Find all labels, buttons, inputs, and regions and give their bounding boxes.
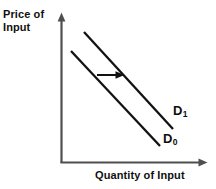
curve-label-d1-base: D	[173, 103, 182, 118]
y-axis-label-line-2: Input	[3, 21, 44, 34]
curve-label-d1-subscript: 1	[183, 109, 188, 119]
y-axis-label-line-1: Price of	[3, 8, 44, 21]
curves-group	[71, 32, 173, 146]
axes-group	[58, 13, 208, 167]
curve-label-d0-subscript: 0	[173, 137, 178, 147]
curve-label-d1: D1	[173, 104, 187, 117]
curve-label-d0-base: D	[163, 131, 172, 146]
x-axis-arrowhead-icon	[199, 159, 208, 167]
curve-label-d0: D0	[163, 132, 177, 145]
x-axis-label: Quantity of Input	[95, 169, 185, 182]
input-demand-shift-figure: Price of Input Quantity of Input D1 D0	[0, 0, 216, 189]
y-axis-arrowhead-icon	[58, 13, 66, 22]
y-axis-label: Price of Input	[3, 8, 44, 33]
